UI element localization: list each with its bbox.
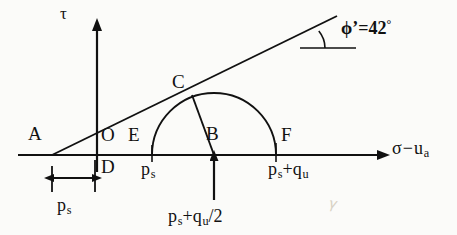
point-label-f: F — [281, 125, 292, 144]
psqu-q: q — [293, 159, 302, 179]
point-label-c: C — [172, 72, 185, 91]
psquh-divide-two: /2 — [209, 206, 223, 226]
u-subscript-a: a — [423, 146, 429, 160]
friction-angle-label: ϕ’=42° — [341, 19, 391, 37]
axis-label-sigma-minus-ua: σ−ua — [392, 139, 429, 160]
phi-value: =42 — [358, 18, 386, 38]
ps-e-p: p — [141, 159, 150, 179]
minus-symbol: − — [402, 138, 414, 158]
point-label-a: A — [28, 124, 42, 143]
psquh-q-subscript-u: u — [202, 214, 209, 228]
abscissa-label-center-ps-plus-qu-half: ps+qu/2 — [168, 207, 223, 228]
psqu-p: p — [268, 159, 277, 179]
angle-arc — [319, 31, 325, 48]
psqu-plus: + — [283, 159, 293, 179]
ps-p: p — [57, 195, 66, 215]
failure-envelope-line — [52, 16, 337, 155]
psquh-p: p — [168, 206, 177, 226]
psquh-q: q — [193, 206, 202, 226]
u-symbol: u — [414, 138, 423, 158]
point-label-o: O — [101, 125, 115, 144]
point-label-d: D — [101, 157, 115, 176]
sigma-symbol: σ — [392, 138, 402, 158]
psqu-q-subscript-u: u — [302, 167, 309, 181]
abscissa-label-ps-plus-qu-at-f: ps+qu — [268, 160, 309, 181]
psquh-plus: + — [183, 206, 193, 226]
point-label-e: E — [128, 125, 140, 144]
ps-e-subscript-s: s — [150, 167, 156, 181]
abscissa-label-ps-at-e: ps — [141, 160, 156, 181]
dimension-label-ps: ps — [57, 196, 72, 217]
degree-symbol: ° — [387, 17, 392, 31]
point-label-b: B — [206, 124, 219, 143]
ps-subscript-s: s — [66, 203, 72, 217]
phi-symbol: ϕ’ — [341, 18, 358, 38]
axis-label-tau: τ — [60, 5, 67, 22]
mohr-circle-figure: τ σ−ua A O E B F C D ϕ’=42° ps ps ps+qu … — [0, 0, 457, 235]
